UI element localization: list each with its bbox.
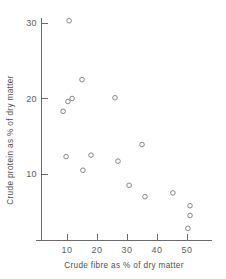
y-tick-label-10: 10: [26, 169, 37, 179]
data-point: [113, 95, 118, 100]
data-point: [70, 96, 75, 101]
x-tick-label-20: 20: [92, 245, 103, 255]
y-tick-label-30: 30: [26, 18, 37, 28]
x-tick-label-40: 40: [152, 245, 163, 255]
data-point: [67, 18, 72, 23]
data-point: [116, 159, 121, 164]
x-tick-label-50: 50: [182, 245, 193, 255]
data-point: [171, 191, 176, 196]
axis-group: [36, 18, 212, 240]
data-point: [81, 168, 86, 173]
data-point: [66, 99, 71, 104]
data-point: [188, 213, 193, 218]
x-tick-labels: 1020304050: [62, 245, 193, 255]
y-tick-labels: 102030: [26, 18, 37, 179]
y-axis-label: Crude protein as % of dry matter: [6, 75, 15, 205]
data-point: [188, 203, 193, 208]
data-point: [140, 142, 145, 147]
x-tick-label-30: 30: [122, 245, 133, 255]
data-point: [61, 109, 66, 114]
data-point: [143, 194, 148, 199]
data-point: [80, 77, 85, 82]
scatter-chart: 1020304050 102030 Crude fibre as % of dr…: [0, 0, 226, 279]
x-tick-label-10: 10: [62, 245, 73, 255]
x-axis-label: Crude fibre as % of dry matter: [64, 261, 184, 270]
data-points: [61, 18, 193, 230]
y-tick-marks: [41, 23, 48, 174]
data-point: [127, 183, 132, 188]
data-point: [186, 226, 191, 231]
plot-area: 1020304050 102030 Crude fibre as % of dr…: [0, 0, 226, 279]
x-tick-marks: [67, 234, 187, 240]
data-point: [64, 154, 69, 159]
data-point: [89, 153, 94, 158]
y-tick-label-20: 20: [26, 94, 37, 104]
